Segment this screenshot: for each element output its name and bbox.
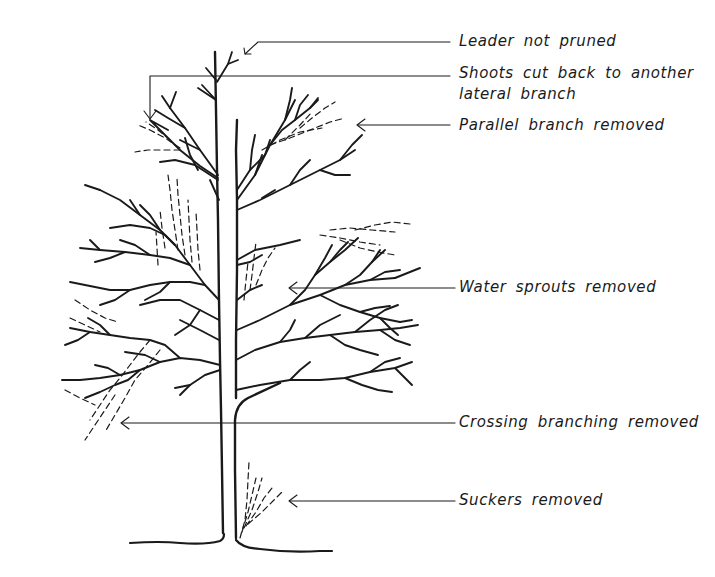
label-crossing-branching-removed: Crossing branching removed	[459, 412, 699, 433]
left-lower-branches	[62, 318, 220, 398]
label-parallel-branch-removed: Parallel branch removed	[459, 115, 665, 136]
trunk	[215, 52, 280, 538]
left-mid-branches	[70, 185, 219, 340]
label-leader-not-pruned: Leader not pruned	[459, 31, 616, 52]
left-upper-branches	[150, 92, 219, 200]
label-shoots-cut-back-line1: Shoots cut back to another	[459, 63, 694, 84]
ground-line	[130, 534, 332, 552]
pruning-diagram: Leader not pruned Shoots cut back to ano…	[0, 0, 715, 577]
label-shoots-cut-back-line2: lateral branch	[459, 84, 576, 105]
right-upper-branches	[237, 88, 362, 210]
label-suckers-removed: Suckers removed	[459, 490, 603, 511]
label-water-sprouts-removed: Water sprouts removed	[459, 277, 656, 298]
